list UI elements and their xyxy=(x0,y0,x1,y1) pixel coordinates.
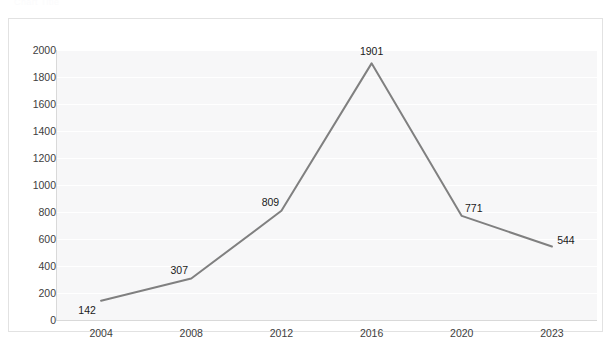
y-axis-tick-label: 1000 xyxy=(14,179,56,191)
y-axis-tick-label: 200 xyxy=(14,287,56,299)
y-axis-tick-label: 0 xyxy=(14,314,56,326)
y-axis-tick-label: 600 xyxy=(14,233,56,245)
data-point-label: 809 xyxy=(262,196,280,208)
series-line xyxy=(101,63,552,300)
x-axis-tick-label: 2004 xyxy=(89,327,112,339)
x-axis-tick-label: 2012 xyxy=(270,327,293,339)
x-axis-tick-label: 2008 xyxy=(180,327,203,339)
y-axis-tick-label: 400 xyxy=(14,260,56,272)
chart-container: Chart Title 0200400600800100012001400160… xyxy=(0,0,612,342)
x-axis-line xyxy=(56,320,597,321)
data-point-label: 307 xyxy=(170,264,188,276)
y-axis-tick-label: 2000 xyxy=(14,44,56,56)
data-point-label: 142 xyxy=(78,304,96,316)
chart-frame: 0200400600800100012001400160018002000 20… xyxy=(8,18,603,332)
x-axis-tick-label: 2020 xyxy=(450,327,473,339)
y-axis-tick-label: 1400 xyxy=(14,125,56,137)
series-line-group xyxy=(56,50,597,320)
chart-header-ghost-text: Chart Title xyxy=(14,0,59,7)
y-axis-tick-label: 1600 xyxy=(14,98,56,110)
y-axis-tick-labels: 0200400600800100012001400160018002000 xyxy=(9,19,56,342)
y-axis-tick-label: 800 xyxy=(14,206,56,218)
x-axis-tick-label: 2023 xyxy=(540,327,563,339)
data-point-label: 544 xyxy=(557,234,575,246)
y-axis-tick-label: 1800 xyxy=(14,71,56,83)
x-axis-tick-label: 2016 xyxy=(360,327,383,339)
data-point-label: 771 xyxy=(465,202,483,214)
y-axis-tick-label: 1200 xyxy=(14,152,56,164)
data-point-label: 1901 xyxy=(360,45,383,57)
